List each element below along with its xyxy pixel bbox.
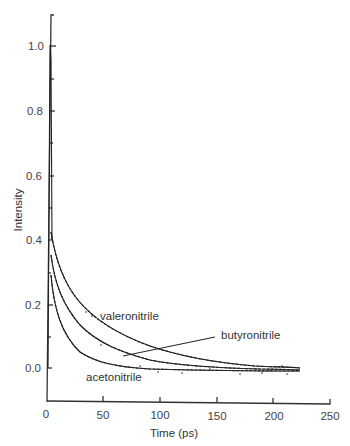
butyronitrile-curve [51, 255, 300, 370]
label-butyronitrile: butyronitrile [221, 329, 280, 341]
x-axis-title: Time (ps) [150, 427, 198, 439]
valeronitrile-curve [51, 232, 300, 368]
butyronitrile-fit [51, 255, 300, 370]
x-tick-50: 50 [97, 409, 110, 421]
x-tick-0: 0 [43, 408, 49, 420]
y-axis-title: Intensity [12, 188, 24, 231]
initial-spike [48, 45, 52, 368]
x-axis [47, 396, 330, 404]
decay-chart: 1.0 0.8 0.6 0.4 0.2 0.0 0 50 100 150 200… [0, 0, 350, 446]
y-tick-0.8: 0.8 [27, 105, 43, 117]
y-tick-0.0: 0.0 [25, 362, 41, 374]
y-tick-labels: 1.0 0.8 0.6 0.4 0.2 0.0 [25, 40, 44, 374]
y-tick-0.6: 0.6 [26, 170, 42, 182]
x-tick-250: 250 [320, 410, 339, 422]
x-tick-150: 150 [207, 410, 226, 422]
acetonitrile-fit [51, 275, 300, 371]
y-tick-0.2: 0.2 [25, 299, 41, 311]
x-tick-200: 200 [264, 410, 283, 422]
x-tick-labels: 0 50 100 150 200 250 [43, 408, 340, 422]
x-tick-100: 100 [150, 409, 169, 421]
butyronitrile-pointer [123, 337, 215, 356]
valeronitrile-fit [51, 232, 300, 368]
label-valeronitrile: valeronitrile [100, 310, 159, 322]
y-tick-1.0: 1.0 [28, 40, 44, 52]
y-tick-0.4: 0.4 [26, 234, 43, 246]
label-acetonitrile: acetonitrile [86, 371, 142, 383]
